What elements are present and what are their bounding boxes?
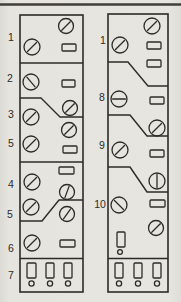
knob-icon [24, 174, 40, 190]
indicator-window [150, 97, 164, 104]
left-panel: 12354567 [7, 15, 83, 292]
knob-icon [23, 109, 39, 125]
push-button-slot [115, 263, 123, 278]
indicator-window [147, 42, 161, 49]
section-divider [108, 62, 168, 86]
push-button-slot [134, 263, 142, 278]
push-button-slot [27, 263, 36, 278]
section-number-label: 7 [8, 269, 14, 281]
section-number-label: 10 [94, 198, 106, 210]
section-number-label: 4 [8, 178, 14, 190]
indicator-window [63, 146, 77, 153]
knob-icon [59, 19, 74, 34]
section-number-label: 1 [8, 31, 14, 43]
control-panels-diagram: 1235456718910 [0, 0, 181, 302]
indicator-window [60, 240, 75, 247]
screw-dot [29, 281, 34, 286]
knob-icon [111, 91, 127, 107]
push-button-slot [117, 232, 125, 247]
push-button-slot [46, 263, 54, 278]
screw-dot [154, 281, 159, 286]
scanned-page: 1235456718910 [0, 0, 181, 302]
push-button-slot [153, 263, 161, 278]
section-number-label: 2 [7, 72, 13, 84]
indicator-window [59, 167, 74, 174]
screw-dot [47, 281, 52, 286]
knob-icon [24, 39, 40, 55]
knob-icon [149, 221, 164, 236]
section-number-label: 5 [8, 137, 14, 149]
screw-dot [65, 281, 70, 286]
knob-icon [149, 120, 165, 136]
push-button-slot [64, 263, 72, 278]
knob-icon [23, 136, 39, 152]
knob-icon [60, 185, 75, 200]
right-panel: 18910 [94, 14, 168, 292]
screw-dot [118, 250, 123, 255]
knob-icon [149, 173, 165, 189]
knob-icon [111, 197, 127, 213]
knob-icon [112, 37, 128, 53]
section-number-label: 9 [99, 139, 105, 151]
screw-dot [116, 281, 121, 286]
knob-icon [23, 74, 39, 90]
indicator-window [150, 150, 164, 157]
section-number-label: 3 [8, 108, 14, 120]
section-number-label: 1 [100, 34, 106, 46]
indicator-window [150, 200, 165, 207]
indicator-window [62, 80, 75, 87]
section-number-label: 8 [99, 91, 105, 103]
section-number-label: 5 [7, 208, 13, 220]
knob-icon [62, 123, 77, 138]
knob-icon [112, 142, 128, 158]
knob-icon [23, 199, 39, 215]
knob-icon [144, 18, 160, 34]
knob-icon [24, 235, 40, 251]
section-number-label: 6 [8, 242, 14, 254]
indicator-window [62, 44, 76, 51]
knob-icon [60, 207, 75, 222]
knob-icon [63, 101, 78, 116]
indicator-window [147, 60, 161, 67]
screw-dot [135, 281, 140, 286]
